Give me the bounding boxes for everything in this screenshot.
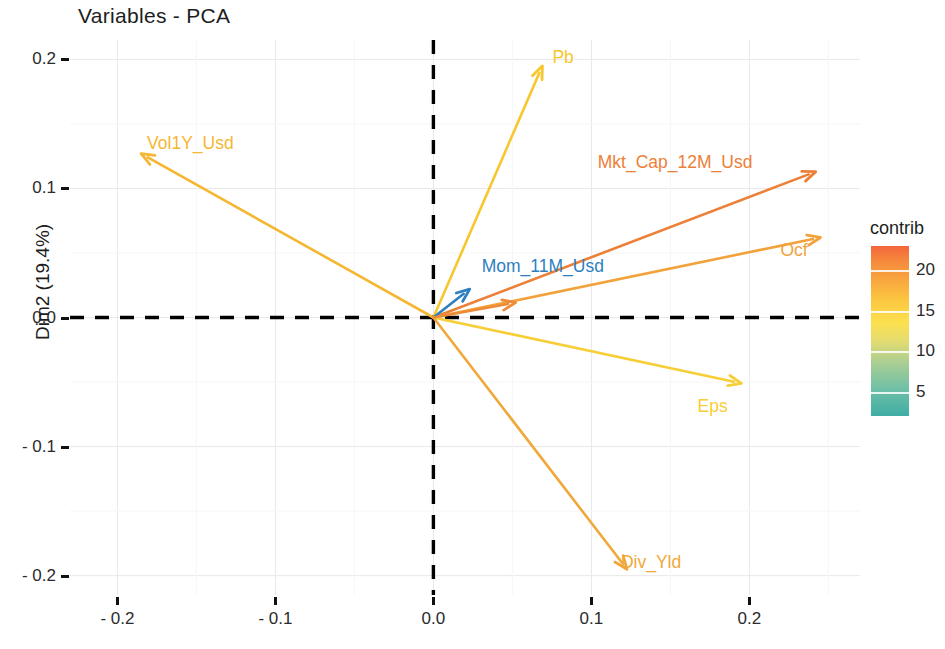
contrib-legend: contrib 2015105 — [868, 218, 943, 433]
variable-label: Mkt_Cap_12M_Usd — [598, 152, 753, 173]
legend-tickmark — [871, 392, 909, 394]
variable-label: Div_Yld — [621, 552, 681, 573]
legend-tickmark — [871, 311, 909, 313]
y-tickmark — [61, 187, 69, 190]
y-tick-label: - 0.1 — [4, 437, 56, 457]
y-tickmark — [61, 446, 69, 449]
y-tickmark — [61, 575, 69, 578]
variable-label: Eps — [698, 396, 728, 417]
pca-variables-plot: Variables - PCA — [0, 0, 945, 649]
x-tickmark — [116, 597, 119, 605]
x-tick-label: 0.0 — [422, 609, 446, 629]
y-axis-title: Dim2 (19.4%) — [32, 224, 54, 340]
legend-tick-label: 15 — [916, 301, 935, 321]
y-tickmark — [61, 317, 69, 320]
x-tick-label: - 0.1 — [258, 609, 292, 629]
variable-label: Pb — [552, 47, 573, 68]
x-tickmark — [274, 597, 277, 605]
plot-canvas — [70, 40, 860, 595]
variable-label: Mom_11M_Usd — [482, 256, 604, 277]
legend-tick-label: 10 — [916, 341, 935, 361]
x-tick-label: 0.2 — [738, 609, 762, 629]
x-tickmark — [590, 597, 593, 605]
legend-title: contrib — [870, 218, 924, 239]
y-tick-label: 0.1 — [4, 178, 56, 198]
x-tickmark — [748, 597, 751, 605]
x-tick-label: - 0.2 — [100, 609, 134, 629]
legend-tickmark — [871, 270, 909, 272]
x-tickmark — [432, 597, 435, 605]
legend-tick-label: 5 — [916, 382, 925, 402]
variable-label: Ocf — [781, 240, 808, 261]
legend-tickmark — [871, 351, 909, 353]
plot-title: Variables - PCA — [78, 4, 230, 28]
variable-label: Vol1Y_Usd — [147, 133, 234, 154]
plot-panel: - 0.2- 0.10.00.10.20.20.10.0- 0.1- 0.2 V… — [70, 40, 860, 595]
y-tickmark — [61, 58, 69, 61]
x-tick-label: 0.1 — [580, 609, 604, 629]
y-tick-label: 0.2 — [4, 49, 56, 69]
y-tick-label: - 0.2 — [4, 566, 56, 586]
legend-tick-label: 20 — [916, 260, 935, 280]
